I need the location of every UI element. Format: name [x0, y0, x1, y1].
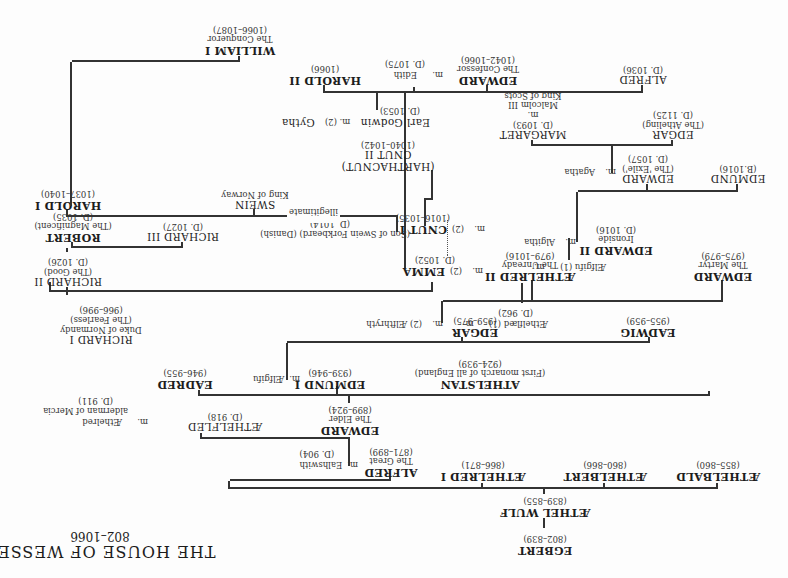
name: ÆTHELRED II: [485, 269, 576, 282]
person-alfred-the-great: ALFRED The Great (871–899): [365, 446, 418, 478]
line-jog: [425, 199, 433, 201]
title-text: THE HOUSE OF WESSEX: [0, 542, 215, 560]
married-label: m.: [474, 224, 485, 234]
line-emma-normandy: [51, 291, 433, 293]
name: MARGARET: [499, 129, 566, 141]
spouse-name: Malcolm III: [499, 100, 566, 110]
name: Ælfgifu: [253, 374, 284, 384]
label: illegitimate: [289, 207, 338, 217]
married-label: m.: [289, 374, 300, 384]
line-exile-children: [612, 145, 614, 173]
person-margaret: MARGARET (D. 1093) m. Malcolm III King o…: [499, 90, 566, 141]
name: ÆTHELBERT: [563, 469, 647, 482]
tick: [647, 184, 649, 192]
name: ÆTHELBALD: [676, 469, 760, 482]
dates: (924–939): [415, 358, 546, 368]
name: Ealhswith: [299, 460, 342, 470]
spouse-algitha: m. Algitha: [524, 235, 576, 253]
name: EMMA: [402, 265, 444, 278]
dates: (D. 962): [463, 307, 548, 317]
line-edward2-children: [577, 192, 579, 242]
line-alfred-children-h: [202, 438, 350, 440]
line-godwin-children: [325, 92, 415, 94]
person-harold-ii: HAROLD II (1066): [289, 64, 361, 86]
dates: (D. 1026): [34, 256, 102, 266]
tick: [717, 483, 719, 489]
line-alfred-children: [349, 438, 351, 466]
desc: (First monarch of all England): [415, 368, 546, 378]
epithet: (The Atheling): [642, 119, 704, 129]
person-edward-the-exile: EDWARD (The 'Exile') (D. 1057): [622, 153, 674, 185]
desc: alderman of Mercia: [43, 405, 148, 415]
dates: (D. 1016): [579, 224, 653, 234]
name: EADWIG: [620, 325, 675, 338]
married-label: m.: [472, 266, 483, 276]
person-swein: SWEIN King of Norway: [221, 189, 288, 211]
tick: [67, 287, 69, 295]
person-eadred: EADRED (946–955): [157, 368, 212, 390]
name: ALFRED: [619, 74, 667, 86]
dates: (939–946): [295, 368, 366, 378]
name: Æthelflæd (1): [489, 319, 548, 329]
line-to-alfred: [230, 480, 391, 482]
dates: (955–959): [620, 316, 675, 326]
dates: (D. 1035): [34, 211, 111, 221]
line-emma-sons: [405, 92, 643, 94]
dates: (860–866): [563, 460, 647, 470]
person-harold-i: HAROLD I (1037–1040): [35, 189, 101, 211]
person-richard-i: RICHARD I Duke of Normandy (The Fearless…: [60, 305, 142, 346]
dates: (D. 1057): [622, 153, 674, 163]
dates: (946–955): [157, 368, 212, 378]
dates: (839–855): [500, 496, 590, 506]
person-edgar-the-atheling: EDGAR (The Atheling) (D. 1125): [642, 109, 704, 141]
title-years: 802–1066: [0, 528, 215, 542]
diagram-title: THE HOUSE OF WESSEX 802–1066: [0, 528, 215, 560]
name: (2) Ælfthryth: [366, 319, 422, 329]
dates: (D. 1125): [642, 109, 704, 119]
tick: [201, 433, 203, 439]
dates: (802–839): [518, 534, 572, 544]
dates: (1040–1042): [341, 139, 434, 149]
person-aethelwulf: ÆTHEL WULF (839–855): [500, 496, 590, 518]
name: RICHARD II: [34, 276, 102, 288]
dates: (899–924): [321, 404, 380, 414]
epithet: Ironside: [579, 234, 653, 244]
person-edmund: EDMUND (B.1016): [710, 163, 765, 185]
person-richard-ii: RICHARD II (The Good) (D. 1026): [34, 256, 102, 288]
line-to-william: [72, 61, 240, 63]
name: (HARTHACNUT): [341, 161, 434, 173]
line-cnut-harthacnut: [432, 170, 434, 198]
person-aethelred-ii: ÆTHELRED II The Unready (979–1016): [485, 250, 576, 282]
person-aethelfled: ÆTHELFLED (D. 918): [188, 411, 262, 433]
spouse-name: Gytha: [282, 117, 315, 129]
name: ÆTHELFLED: [188, 421, 262, 433]
tick: [390, 477, 392, 481]
spouse-agatha: m. Agatha: [564, 165, 616, 183]
dates: (B.1016): [710, 163, 765, 173]
line-robert-william: [71, 62, 73, 206]
name: EDWARD: [321, 423, 380, 436]
dates: (D. 918): [188, 411, 262, 421]
name: EDWARD: [457, 73, 519, 86]
person-alfred-d1036: ALFRED (D. 1036): [619, 64, 667, 86]
person-egbert: EGBERT (802–839): [518, 534, 572, 556]
name: Earl Godwin: [361, 117, 430, 129]
line-edmund-children-h: [287, 342, 650, 344]
name: Agatha: [564, 167, 595, 177]
name: EDMUND I: [295, 377, 366, 390]
tick: [722, 280, 724, 302]
tick: [67, 248, 69, 252]
dates: (855–860): [676, 460, 760, 470]
name: ÆTHEL WULF: [500, 505, 590, 518]
tick: [709, 391, 711, 396]
name: EGBERT: [518, 543, 572, 556]
name: EADRED: [157, 377, 212, 390]
person-william-i: WILLIAM I The Conqueror (1066–1087): [205, 24, 276, 56]
person-aethelbald: ÆTHELBALD (855–860): [676, 460, 760, 482]
person-edmund-i: EDMUND I (939–946): [295, 368, 366, 390]
name: ÆTHELRED I: [440, 469, 525, 482]
name: EDWARD: [622, 173, 674, 185]
name: ATHELSTAN: [415, 377, 546, 390]
name: EDMUND: [710, 173, 765, 185]
line-aethelwulf-children: [230, 488, 718, 490]
